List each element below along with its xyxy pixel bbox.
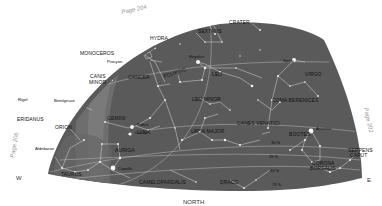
label-auriga: AURIGA [115, 147, 135, 153]
star-regulus [196, 60, 200, 64]
label-leo: LEO [212, 71, 222, 77]
star-betelgeuse [61, 108, 65, 112]
star-procyon [109, 66, 113, 70]
label-eridanus: ERIDANUS [17, 116, 44, 122]
label-procyon: Procyon [107, 59, 123, 64]
label-draco: DRACO [220, 179, 239, 185]
label-monoceros: MONOCEROS [80, 50, 115, 56]
label-castor: Castor [135, 130, 148, 135]
label-canis-minor-2: MINOR [89, 79, 106, 85]
label-arcturus: Arcturus [316, 126, 332, 131]
label-serpens-caput-2: CAPUT [350, 152, 367, 158]
label-rigel: Rigel [18, 97, 28, 102]
label-bootes: BOOTES [289, 131, 311, 137]
label-gemini: GEMINI [107, 115, 125, 121]
label-orion: ORION [55, 124, 72, 130]
label-sextans: SEXTANS [198, 28, 222, 34]
page-ref-right[interactable]: Page 202 [363, 107, 374, 134]
label-aldebaran: Aldebaran [35, 146, 55, 151]
label-cancer: CANCER [128, 74, 150, 80]
label-taurus: TAURUS [61, 171, 82, 177]
label-coma-berenices: COMA BERENICES [272, 97, 319, 103]
direction-north: NORTH [183, 199, 204, 205]
star-castor [128, 132, 131, 135]
star-pollux [130, 125, 134, 129]
label-leo-minor: LEO MINOR [192, 96, 221, 102]
mark-30: 30°S [271, 140, 280, 145]
direction-west: W [16, 175, 22, 181]
label-crater: CRATER [229, 19, 250, 25]
star-chart: CRATER SEXTANS HYDRA MONOCEROS CANIS MIN… [0, 0, 382, 206]
mark-75: 75°S [272, 182, 281, 187]
label-hydra: HYDRA [150, 35, 169, 41]
label-corona-borealis-2: BOREALIS [310, 165, 336, 171]
label-regulus: Regulus [189, 54, 204, 59]
mark-45: 45°S [269, 154, 278, 159]
label-spica: Spica [283, 58, 294, 63]
label-ursa-major: URSA MAJOR [191, 128, 225, 134]
page-ref-left[interactable]: Page 206 [9, 131, 19, 158]
direction-east: E [367, 177, 371, 183]
label-virgo: VIRGO [305, 71, 322, 77]
label-pollux: Pollux [137, 122, 149, 127]
label-betelgeuse: Betelgeuse [54, 98, 76, 103]
mark-60: 60°S [270, 168, 279, 173]
star-capella [111, 166, 116, 171]
label-camelopardalis: CAMELOPARDALIS [139, 179, 186, 185]
star-rigel [40, 102, 44, 106]
page-ref-top[interactable]: Page 204 [121, 4, 148, 15]
label-canes-venatici: CANES VENATICI [237, 120, 280, 126]
label-capella: Capella [118, 166, 133, 171]
